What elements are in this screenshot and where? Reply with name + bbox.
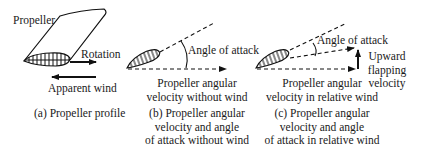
caption-a: (a) Propeller profile — [34, 107, 125, 121]
label-angle-of-attack-b: Angle of attack — [188, 44, 259, 57]
label-rotation: Rotation — [81, 48, 121, 61]
label-upward-line1: Upward — [363, 50, 411, 64]
caption-b-line3: of attack without wind — [143, 134, 251, 148]
label-velocity-b-line1: Propeller angular — [143, 77, 251, 91]
relative-wind-line-c — [290, 48, 354, 58]
label-propeller: Propeller — [13, 14, 55, 27]
caption-b-line1: (b) Propeller angular — [143, 107, 251, 121]
label-angle-of-attack-c: Angle of attack — [317, 34, 388, 47]
label-apparent-wind: Apparent wind — [48, 82, 117, 95]
label-velocity-b: Propeller angular velocity without wind — [143, 77, 251, 104]
caption-c-line3: of attack in relative wind — [263, 134, 381, 148]
label-velocity-c-line1: Propeller angular — [263, 77, 381, 91]
caption-b: (b) Propeller angular velocity and angle… — [143, 107, 251, 148]
airfoil-section-a — [24, 53, 70, 66]
label-velocity-c-line2: velocity in relative wind — [263, 91, 381, 105]
label-velocity-c: Propeller angular velocity in relative w… — [263, 77, 381, 104]
caption-b-line2: velocity and angle — [143, 121, 251, 135]
airfoil-section-b — [124, 47, 162, 70]
caption-c: (c) Propeller angular velocity and angle… — [263, 107, 381, 148]
label-upward-line2: flapping — [363, 64, 411, 78]
label-velocity-b-line2: velocity without wind — [143, 91, 251, 105]
angle-arc-b — [181, 41, 187, 68]
caption-c-line1: (c) Propeller angular — [263, 107, 381, 121]
caption-c-line2: velocity and angle — [263, 121, 381, 135]
